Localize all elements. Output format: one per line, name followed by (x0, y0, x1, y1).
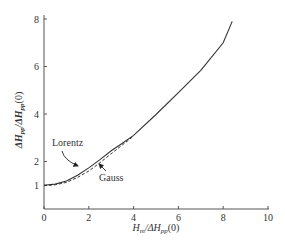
y-tick-label: 6 (34, 61, 39, 72)
y-tick-label: 4 (34, 109, 39, 120)
y-axis-label: ΔHpp/ΔHpp(0) (13, 92, 26, 150)
y-tick-label: 2 (34, 156, 39, 167)
y-ticks: 12468 (34, 14, 47, 191)
y-tick-label: 1 (34, 180, 39, 191)
x-tick-label: 2 (86, 212, 91, 223)
lorentz-arrow-icon (62, 151, 78, 166)
x-axis-label: Hm/ΔHpp(0) (132, 222, 180, 235)
gauss-arrow-icon (99, 164, 106, 171)
chart: 12468 0246810 Lorentz Gauss Hm/ΔHpp(0) Δ… (0, 0, 285, 248)
gauss-label: Gauss (99, 172, 124, 183)
lorentz-curve (44, 21, 232, 185)
x-tick-label: 8 (221, 212, 226, 223)
x-tick-label: 0 (42, 212, 47, 223)
x-tick-label: 10 (263, 212, 273, 223)
lorentz-label: Lorentz (52, 137, 84, 148)
y-tick-label: 8 (34, 14, 39, 25)
